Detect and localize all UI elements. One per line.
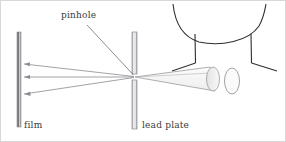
lead-plate-upper — [132, 32, 137, 74]
cone-body — [135, 67, 215, 91]
right-neck-line — [251, 34, 252, 63]
ray-middle-arrowhead — [24, 75, 30, 79]
left-neck-line — [195, 34, 196, 63]
lead-plate — [132, 32, 137, 129]
subject-shoulders-group — [172, 34, 277, 71]
ray-bundle-film — [24, 62, 134, 96]
hand-ellipse — [225, 68, 240, 94]
object-ray-cone — [135, 67, 215, 91]
arm-end-cap — [207, 67, 220, 91]
pinhole-pointer-line — [87, 25, 134, 75]
lead-plate-label: lead plate — [142, 120, 189, 130]
jaw-curve — [173, 4, 266, 44]
film-plate-body — [17, 32, 21, 127]
lead-plate-lower — [132, 80, 137, 129]
pinhole-label: pinhole — [61, 10, 96, 20]
subject-head-group — [173, 4, 266, 44]
subject-arm-group — [207, 67, 240, 94]
ray-lower-arrowhead — [24, 92, 31, 96]
film-plate — [17, 32, 21, 127]
right-shoulder-line — [252, 63, 278, 71]
pinhole-camera-diagram: pinhole film lead plate — [0, 0, 286, 142]
ray-upper-arrowhead — [24, 62, 30, 66]
ray-upper — [24, 64, 134, 77]
film-label: film — [24, 120, 42, 130]
ray-lower — [24, 78, 134, 95]
